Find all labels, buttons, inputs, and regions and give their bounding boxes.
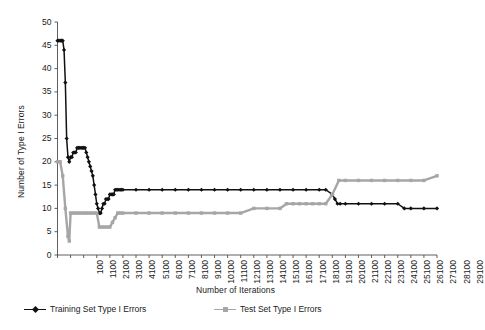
x-tick-label: 18100 [331, 260, 341, 294]
x-tick-label: 27100 [448, 260, 458, 294]
x-tick-label: 8100 [200, 260, 210, 294]
x-tick-label: 4100 [147, 260, 157, 294]
x-tick-label: 21100 [370, 260, 380, 294]
x-tick-label: 19100 [344, 260, 354, 294]
y-tick-label: 10 [28, 203, 52, 213]
x-tick-label: 5100 [161, 260, 171, 294]
x-tick-label: 24100 [409, 260, 419, 294]
x-tick-label: 7100 [187, 260, 197, 294]
y-tick-label: 20 [28, 156, 52, 166]
x-tick-label: 17100 [318, 260, 328, 294]
x-tick-label: 26100 [435, 260, 445, 294]
chart-series-layer [55, 39, 439, 243]
y-tick-label: 30 [28, 110, 52, 120]
legend-line-diamond-icon [24, 305, 46, 314]
y-tick-label: 15 [28, 180, 52, 190]
x-tick-label: 12100 [252, 260, 262, 294]
x-tick-label: 13100 [265, 260, 275, 294]
x-tick-label: 15100 [291, 260, 301, 294]
x-tick-label: 100 [95, 260, 105, 294]
y-tick-label: 40 [28, 63, 52, 73]
y-tick-label: 45 [28, 40, 52, 50]
x-tick-label: 29100 [475, 260, 485, 294]
x-tick-label: 14100 [278, 260, 288, 294]
x-tick-label: 10100 [226, 260, 236, 294]
x-tick-label: 28100 [462, 260, 472, 294]
x-tick-label: 11100 [239, 260, 249, 294]
legend-item-test: Test Set Type I Errors [214, 304, 322, 314]
x-tick-label: 3100 [134, 260, 144, 294]
y-tick-label: 5 [28, 226, 52, 236]
x-tick-label: 2100 [121, 260, 131, 294]
x-tick-label: 20100 [357, 260, 367, 294]
y-tick-label: 50 [28, 17, 52, 27]
y-tick-label: 25 [28, 133, 52, 143]
chart-legend: Training Set Type I Errors Test Set Type… [0, 300, 444, 324]
legend-label-test: Test Set Type I Errors [240, 304, 322, 314]
x-tick-label: 22100 [383, 260, 393, 294]
legend-item-training: Training Set Type I Errors [24, 304, 146, 314]
y-tick-label: 35 [28, 86, 52, 96]
x-tick-label: 6100 [174, 260, 184, 294]
y-tick-label: 0 [28, 250, 52, 260]
x-tick-label: 16100 [304, 260, 314, 294]
x-tick-label: 1100 [108, 260, 118, 294]
y-axis-title: Number of Type I Errors [16, 105, 26, 198]
x-tick-label: 23100 [396, 260, 406, 294]
legend-line-square-icon [214, 305, 236, 314]
legend-label-training: Training Set Type I Errors [50, 304, 146, 314]
x-tick-label: 25100 [422, 260, 432, 294]
x-tick-label: 9100 [213, 260, 223, 294]
